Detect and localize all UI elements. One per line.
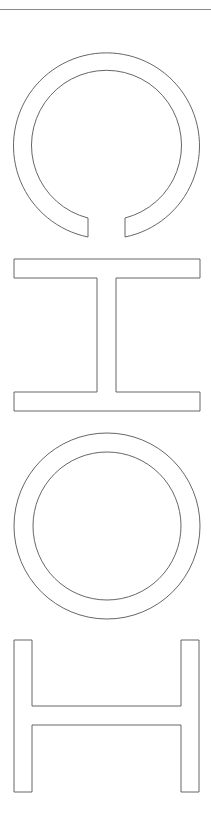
outlined-letters — [0, 0, 211, 837]
letter-h-glyph-2 — [14, 640, 199, 792]
letter-h-glyph — [14, 259, 200, 411]
letter-c-glyph — [13, 53, 199, 237]
letter-o-glyph — [14, 433, 200, 619]
